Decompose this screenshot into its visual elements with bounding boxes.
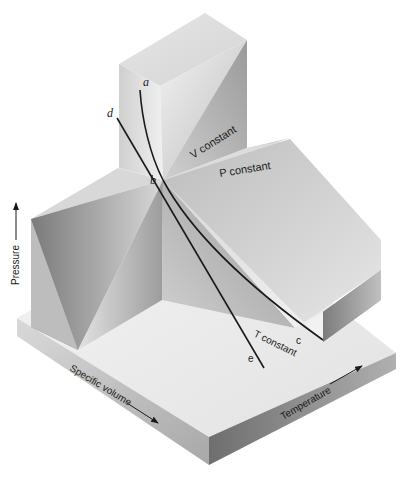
point-a-label: a [143, 75, 149, 89]
point-e-label: e [248, 353, 254, 364]
point-b-label: b [150, 173, 156, 187]
pressure-axis-label: Pressure [10, 245, 21, 285]
pvt-surface-diagram: a d b c e V constant P constant T consta… [0, 0, 407, 477]
pressure-axis: Pressure [10, 203, 21, 285]
point-c-label: c [296, 335, 301, 346]
point-d-label: d [107, 106, 114, 120]
